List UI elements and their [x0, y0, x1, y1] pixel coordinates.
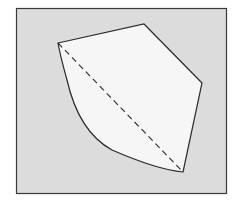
diagram-canvas [0, 0, 238, 207]
diagram-svg [0, 0, 238, 207]
